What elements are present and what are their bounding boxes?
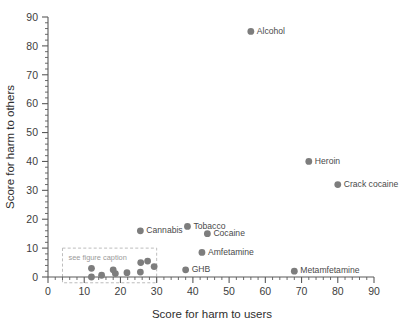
data-point [144,258,151,265]
y-axis-tick-label: 50 [26,126,38,138]
data-point-label: Amfetamine [208,247,254,257]
data-point-label: Heroin [315,156,341,166]
x-axis-title: Score for harm to users [152,308,272,320]
y-axis-tick-label: 60 [26,97,38,109]
y-axis-tick-label: 0 [32,271,38,283]
data-point-labels-layer: AlcoholHeroinCrack cocaineMetamfetamineC… [146,26,398,276]
data-point [184,223,191,230]
y-axis-tick-label: 90 [26,11,38,23]
data-point [88,265,95,272]
x-axis-tick-label: 40 [187,285,199,297]
data-point [124,269,131,276]
data-point [334,181,341,188]
y-axis-tick-label: 80 [26,40,38,52]
chart-canvas: see figure caption 010203040506070809001… [0,0,413,328]
x-axis-tick-label: 30 [151,285,163,297]
data-point [291,268,298,275]
data-point-label: GHB [192,264,211,274]
data-point [137,259,144,266]
x-axis-tick-label: 90 [368,285,380,297]
x-axis-tick-label: 0 [45,285,51,297]
x-axis-tick-label: 80 [332,285,344,297]
y-axis-tick-label: 30 [26,184,38,196]
y-axis-tick-label: 10 [26,242,38,254]
data-point-label: Metamfetamine [300,265,359,275]
data-point [305,158,312,165]
data-point [204,230,211,237]
figure-caption-note: see figure caption [68,253,126,262]
x-axis-tick-label: 60 [259,285,271,297]
data-point [98,272,105,279]
data-point [137,269,144,276]
y-axis-tick-label: 20 [26,213,38,225]
y-axis-tick-label: 40 [26,155,38,167]
data-point [151,263,158,270]
data-point [247,28,254,35]
x-axis-tick-label: 70 [296,285,308,297]
data-point [182,266,189,273]
data-point [137,227,144,234]
x-axis-tick-label: 10 [78,285,90,297]
x-axis-tick-label: 20 [115,285,127,297]
y-axis-title: Score for harm to others [4,85,16,209]
x-axis-tick-label: 50 [223,285,235,297]
data-point [88,274,95,281]
data-point-label: Crack cocaine [344,179,399,189]
data-point-label: Cocaine [213,228,245,238]
data-point-label: Alcohol [257,26,285,36]
scatter-plot-figure: see figure caption 010203040506070809001… [0,0,413,328]
data-point [112,270,119,277]
data-point-label: Cannabis [146,225,182,235]
data-points-layer [88,28,341,280]
data-point [199,249,206,256]
y-axis-tick-label: 70 [26,69,38,81]
